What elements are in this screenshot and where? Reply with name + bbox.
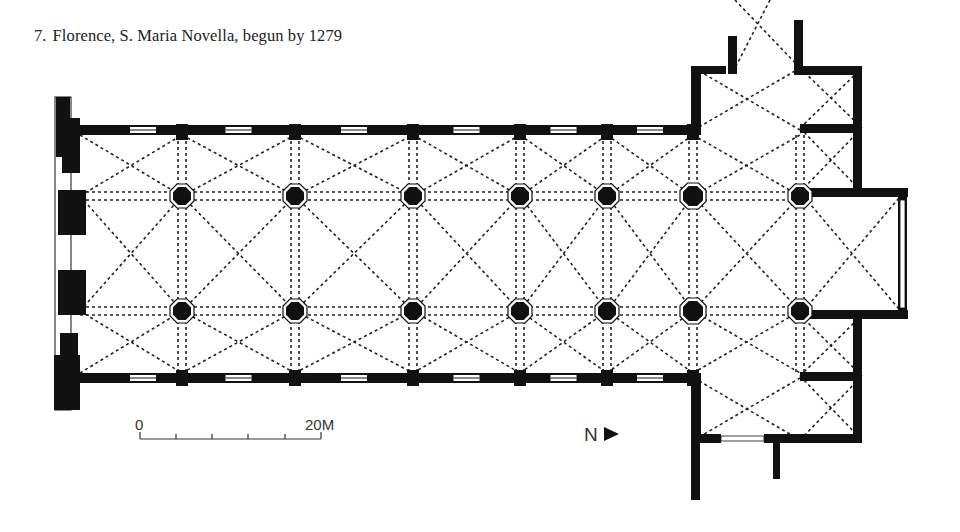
walls (54, 20, 908, 500)
scale-start-label: 0 (135, 416, 143, 433)
north-arrow-icon (604, 427, 619, 441)
scale-bar (140, 432, 321, 439)
scale-end-label: 20M (305, 416, 334, 433)
floor-plan: 0 20M N (0, 0, 960, 532)
windows (130, 127, 905, 441)
piers (170, 124, 812, 386)
north-label: N (584, 424, 598, 445)
